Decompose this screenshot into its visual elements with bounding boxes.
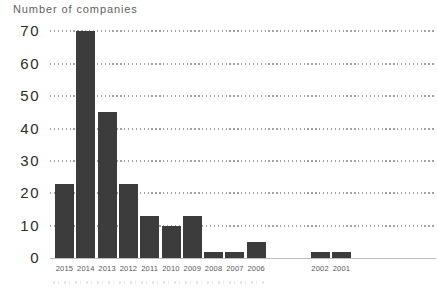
bar-2002 xyxy=(311,252,330,258)
y-tick-label-0: 0 xyxy=(0,249,40,267)
y-tick-label-10: 10 xyxy=(0,217,40,235)
x-tick-label-2006: 2006 xyxy=(241,264,271,273)
bar-2001 xyxy=(332,252,351,258)
y-tick-label-50: 50 xyxy=(0,87,40,105)
y-tick-label-40: 40 xyxy=(0,120,40,138)
bar-2012 xyxy=(119,184,138,259)
y-tick-label-20: 20 xyxy=(0,184,40,202)
bar-2006 xyxy=(247,242,266,258)
cut-off-caption xyxy=(53,281,265,284)
y-tick-label-60: 60 xyxy=(0,55,40,73)
bar-2007 xyxy=(225,252,244,258)
axis-baseline xyxy=(50,258,436,259)
gridline-70 xyxy=(50,30,436,32)
bar-2009 xyxy=(183,216,202,258)
bar-2015 xyxy=(55,184,74,259)
bar-2008 xyxy=(204,252,223,258)
bar-2013 xyxy=(98,112,117,258)
y-tick-label-70: 70 xyxy=(0,22,40,40)
bar-2011 xyxy=(140,216,159,258)
bar-2014 xyxy=(76,31,95,258)
bar-chart-figure: Number of companies 01020304050607020152… xyxy=(0,0,438,290)
chart-title: Number of companies xyxy=(13,3,138,15)
x-tick-label-2001: 2001 xyxy=(326,264,356,273)
bar-2010 xyxy=(162,226,181,258)
gridline-50 xyxy=(50,95,436,97)
y-tick-label-30: 30 xyxy=(0,152,40,170)
gridline-60 xyxy=(50,63,436,65)
